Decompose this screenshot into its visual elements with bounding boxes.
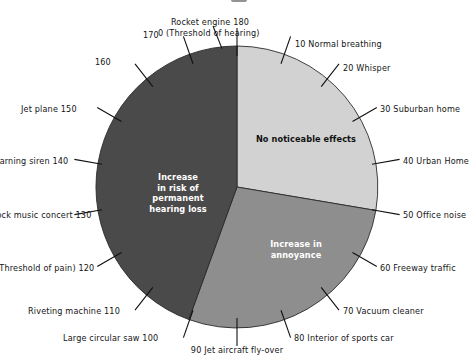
tick-label-60: 60 Freeway traffic — [380, 264, 456, 272]
tick-label-160: 160 — [95, 58, 133, 66]
tick-label-30: 30 Suburban home — [380, 105, 460, 113]
tick-label-130: Rock music concert 130 — [0, 211, 73, 219]
tick-label-120: (Threshold of pain) 120 — [0, 264, 96, 272]
tick-label-170: 170 — [143, 31, 181, 39]
slice-label-no-noticeable-effects: No noticeable effects — [247, 134, 365, 145]
tick-label-110: Riveting machine 110 — [28, 307, 133, 315]
tick-label-10: 10 Normal breathing — [295, 40, 382, 48]
tick-label-50: 50 Office noise — [403, 211, 466, 219]
tick-label-140: Warning siren 140 — [0, 157, 73, 165]
tick-50 — [372, 210, 400, 215]
decibel-pie-chart: Rocket engine 180 0 (Threshold of hearin… — [0, 0, 469, 362]
tick-label-40: 40 Urban Home — [403, 157, 469, 165]
tick-label-80: 80 Interior of sports car — [294, 334, 394, 342]
tick-label-20: 20 Whisper — [343, 64, 391, 72]
slice-label-increase-in-annoyance: Increase in annoyance — [256, 239, 336, 260]
tick-label-70: 70 Vacuum cleaner — [343, 307, 424, 315]
tick-label-180: Rocket engine 180 — [155, 18, 265, 26]
tick-label-150: Jet plane 150 — [21, 105, 96, 113]
slice-label-hearing-loss: Increase in risk of permanent hearing lo… — [140, 172, 216, 214]
tick-label-90: 90 Jet aircraft fly-over — [182, 346, 292, 354]
tick-label-100: Large circular saw 100 — [63, 334, 181, 342]
tick-40 — [372, 159, 400, 164]
